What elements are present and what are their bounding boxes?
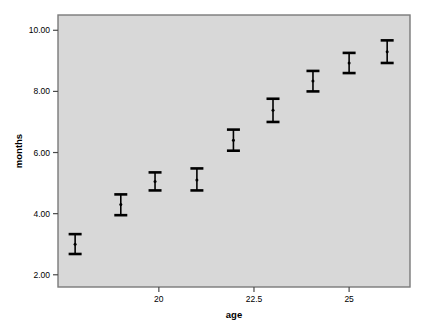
y-tick-label: 10.00: [29, 25, 51, 35]
y-tick-label: 6.00: [33, 148, 50, 158]
mean-marker: [348, 61, 351, 64]
chart-canvas: 2.004.006.008.0010.00 2022.525 age month…: [0, 0, 425, 335]
y-tick-label: 4.00: [33, 209, 50, 219]
y-tick-label: 8.00: [33, 86, 50, 96]
mean-marker: [74, 243, 77, 246]
x-axis-title: age: [226, 309, 242, 320]
mean-marker: [232, 139, 235, 142]
mean-marker: [311, 80, 314, 83]
mean-marker: [386, 50, 389, 53]
y-axis-title: months: [13, 134, 24, 168]
mean-marker: [119, 203, 122, 206]
x-tick-label: 25: [344, 294, 354, 304]
y-tick-label: 2.00: [33, 270, 50, 280]
x-tick-label: 20: [154, 294, 164, 304]
error-bar-chart: 2.004.006.008.0010.00 2022.525 age month…: [0, 0, 425, 335]
mean-marker: [272, 109, 275, 112]
x-tick-label: 22.5: [246, 294, 263, 304]
mean-marker: [195, 179, 198, 182]
mean-marker: [154, 180, 157, 183]
